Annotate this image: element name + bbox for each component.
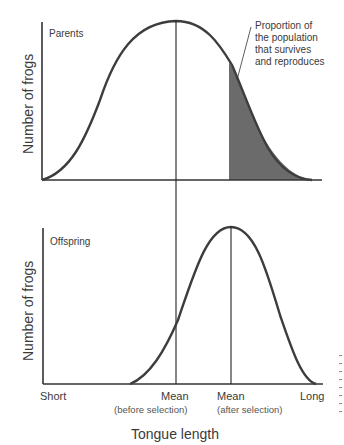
annotation-line-4: and reproduces [255, 56, 325, 68]
annotation-line-2: the population [255, 32, 325, 44]
x-tick-mean-before-sub: (before selection) [114, 404, 187, 415]
x-tick-long: Long [300, 390, 324, 402]
x-tick-mean-after-sub: (after selection) [217, 404, 282, 415]
offspring-panel-title: Offspring [50, 236, 90, 247]
top-y-axis-label: Number of frogs [20, 54, 36, 154]
survivors-annotation: Proportion of the population that surviv… [255, 20, 325, 68]
annotation-leader-line [237, 27, 251, 80]
x-tick-mean-before: Mean [161, 390, 189, 402]
x-axis-title: Tongue length [131, 426, 219, 442]
x-tick-short: Short [40, 390, 66, 402]
annotation-line-3: that survives [255, 44, 325, 56]
offspring-distribution-curve [130, 227, 316, 384]
parents-panel-title: Parents [49, 28, 83, 39]
bottom-y-axis-label: Number of frogs [20, 261, 36, 361]
annotation-line-1: Proportion of [255, 20, 325, 32]
shaded-survivors-region [229, 62, 310, 180]
edge-artifact-marks [339, 355, 343, 419]
x-tick-mean-after: Mean [217, 390, 245, 402]
